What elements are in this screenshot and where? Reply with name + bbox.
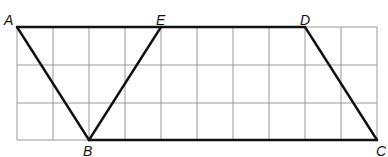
grid-lines (17, 27, 377, 140)
point-label-c: C (376, 143, 387, 157)
point-label-a: A (3, 12, 13, 28)
point-label-b: B (83, 143, 92, 157)
grid-diagram: A E D B C (0, 0, 388, 157)
point-label-e: E (156, 12, 166, 28)
point-label-d: D (300, 12, 310, 28)
